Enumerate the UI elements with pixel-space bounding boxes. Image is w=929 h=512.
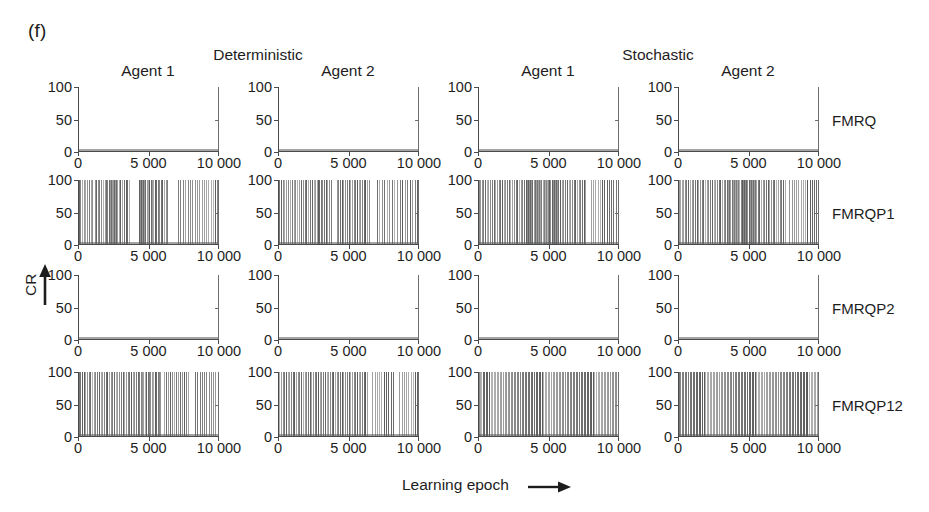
spike bbox=[386, 372, 387, 436]
spike bbox=[164, 372, 165, 436]
y-tick bbox=[74, 120, 78, 121]
spike bbox=[288, 180, 289, 244]
x-tick-label: 5 000 bbox=[730, 249, 766, 264]
y-tick-label: 50 bbox=[56, 397, 72, 412]
spike bbox=[379, 372, 380, 436]
spike bbox=[184, 372, 185, 436]
plot-area bbox=[278, 275, 419, 340]
spike bbox=[101, 180, 102, 244]
spike bbox=[195, 372, 196, 436]
spike bbox=[609, 180, 610, 244]
left-axis-spine bbox=[478, 87, 479, 152]
y-tick bbox=[274, 275, 278, 276]
x-tick-label: 0 bbox=[274, 156, 282, 171]
spike bbox=[308, 180, 309, 244]
spike bbox=[172, 372, 173, 436]
plot-area bbox=[278, 87, 419, 152]
right-axis-tick bbox=[415, 213, 419, 214]
subplot-fmrq-col3: 05010005 00010 000 bbox=[478, 87, 619, 152]
x-tick-label: 5 000 bbox=[730, 156, 766, 171]
column-title-0: Agent 1 bbox=[78, 62, 218, 80]
subplot-fmrqp1-col2: 05010005 00010 000 bbox=[278, 180, 419, 245]
y-tick-label: 100 bbox=[248, 365, 272, 380]
y-tick-label: 50 bbox=[56, 112, 72, 127]
y-tick bbox=[474, 405, 478, 406]
x-tick-label: 10 000 bbox=[397, 344, 441, 359]
spike bbox=[367, 372, 368, 436]
x-tick-label: 5 000 bbox=[130, 156, 166, 171]
spike bbox=[591, 180, 592, 244]
left-axis-spine bbox=[678, 87, 679, 152]
spike bbox=[166, 372, 167, 436]
column-title-3: Agent 2 bbox=[678, 62, 818, 80]
y-tick-label: 50 bbox=[256, 205, 272, 220]
y-tick-label: 100 bbox=[48, 173, 72, 188]
y-tick-label: 50 bbox=[256, 300, 272, 315]
subplot-fmrqp2-col3: 05010005 00010 000 bbox=[478, 275, 619, 340]
right-arrow-icon bbox=[528, 481, 572, 493]
spike bbox=[202, 180, 203, 244]
spike bbox=[299, 180, 300, 244]
spike bbox=[180, 372, 181, 436]
x-tick-label: 10 000 bbox=[197, 344, 241, 359]
spike bbox=[283, 180, 284, 244]
plot-area bbox=[478, 372, 619, 437]
x-tick-label: 0 bbox=[674, 344, 682, 359]
spike bbox=[178, 180, 179, 244]
plot-area bbox=[678, 87, 819, 152]
spike bbox=[369, 180, 370, 244]
y-tick bbox=[474, 120, 478, 121]
y-tick-label: 0 bbox=[464, 145, 472, 160]
y-tick-label: 50 bbox=[56, 300, 72, 315]
spike bbox=[397, 180, 398, 244]
spike bbox=[174, 372, 175, 436]
plot-area bbox=[478, 180, 619, 245]
right-axis-tick bbox=[215, 120, 219, 121]
spike bbox=[801, 180, 802, 244]
plot-area bbox=[78, 372, 219, 437]
y-tick-label: 0 bbox=[464, 333, 472, 348]
spike bbox=[382, 180, 383, 244]
spike bbox=[182, 372, 183, 436]
spike bbox=[206, 372, 207, 436]
spike bbox=[176, 372, 177, 436]
spike bbox=[810, 180, 811, 244]
spike bbox=[794, 180, 795, 244]
y-tick bbox=[74, 87, 78, 88]
x-tick-label: 10 000 bbox=[397, 441, 441, 456]
y-tick-label: 100 bbox=[248, 173, 272, 188]
y-tick-label: 100 bbox=[248, 268, 272, 283]
spike bbox=[602, 180, 603, 244]
plot-area bbox=[678, 372, 819, 437]
y-tick-label: 0 bbox=[664, 145, 672, 160]
spike bbox=[202, 372, 203, 436]
subplot-fmrqp1-col4: 05010005 00010 000 bbox=[678, 180, 819, 245]
panel-letter: (f) bbox=[28, 20, 47, 42]
x-tick-label: 10 000 bbox=[797, 441, 841, 456]
subplot-fmrqp1-col1: 05010005 00010 000 bbox=[78, 180, 219, 245]
x-axis-title: Learning epoch bbox=[402, 476, 509, 494]
x-tick-label: 0 bbox=[74, 441, 82, 456]
spike bbox=[585, 180, 586, 244]
subplot-fmrq-col4: 05010005 00010 000 bbox=[678, 87, 819, 152]
spike bbox=[405, 180, 406, 244]
spike bbox=[611, 180, 612, 244]
right-axis-tick bbox=[815, 213, 819, 214]
y-tick-label: 50 bbox=[456, 300, 472, 315]
subplot-fmrqp1-col3: 05010005 00010 000 bbox=[478, 180, 619, 245]
y-tick bbox=[274, 405, 278, 406]
x-tick-label: 0 bbox=[274, 344, 282, 359]
spike bbox=[160, 372, 161, 436]
y-tick-label: 100 bbox=[648, 268, 672, 283]
spike bbox=[295, 180, 296, 244]
y-tick-label: 0 bbox=[64, 333, 72, 348]
spike bbox=[188, 180, 189, 244]
spike bbox=[389, 180, 390, 244]
right-axis-tick bbox=[615, 308, 619, 309]
spike bbox=[331, 180, 332, 244]
plot-area bbox=[78, 87, 219, 152]
y-tick bbox=[474, 308, 478, 309]
y-tick-label: 100 bbox=[248, 80, 272, 95]
spike bbox=[204, 180, 205, 244]
spike bbox=[168, 372, 169, 436]
